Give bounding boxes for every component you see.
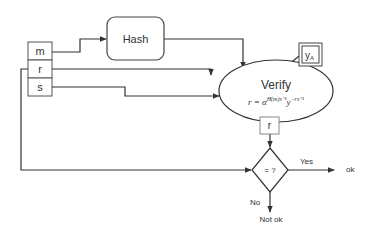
edge-r-to-decision — [21, 69, 251, 170]
edge-r-to-verify — [52, 69, 211, 75]
edge-s-to-verify — [52, 87, 219, 96]
decision-node: = ? Yes No — [250, 148, 313, 207]
input-stack: m r s — [28, 42, 52, 96]
hash-label: Hash — [123, 33, 149, 45]
input-label-m: m — [35, 45, 44, 57]
equation-exp1: H(m)s⁻¹ — [266, 96, 287, 103]
verify-node: Verify r = αH(m)s⁻¹y−rs⁻¹ — [219, 60, 333, 122]
equation-exp2: −rs⁻¹ — [291, 96, 305, 102]
signature-verification-diagram: m r s Hash Verify r = αH(m)s⁻¹y−r — [0, 0, 370, 234]
edge-hash-to-verify — [164, 39, 243, 68]
outcome-ok: ok — [346, 165, 355, 174]
equation-lhs: r = α — [248, 97, 267, 107]
verify-label: Verify — [261, 78, 291, 92]
outcome-not-ok: Not ok — [259, 215, 283, 224]
input-label-s: s — [37, 81, 43, 93]
hash-node: Hash — [107, 17, 164, 60]
input-label-r: r — [38, 63, 42, 75]
edge-m-to-hash — [52, 39, 106, 52]
r-output-node: r — [260, 117, 279, 134]
public-key-node: yA — [299, 43, 322, 66]
yes-label: Yes — [300, 157, 313, 166]
decision-label: = ? — [264, 166, 276, 175]
no-label: No — [250, 198, 261, 207]
